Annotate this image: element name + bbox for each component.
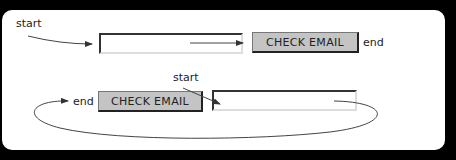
top-start-arrow [28,36,92,44]
bottom-start-arrow [183,88,220,104]
flow-arrows [0,0,456,160]
bottom-loop-arrow [34,101,377,138]
